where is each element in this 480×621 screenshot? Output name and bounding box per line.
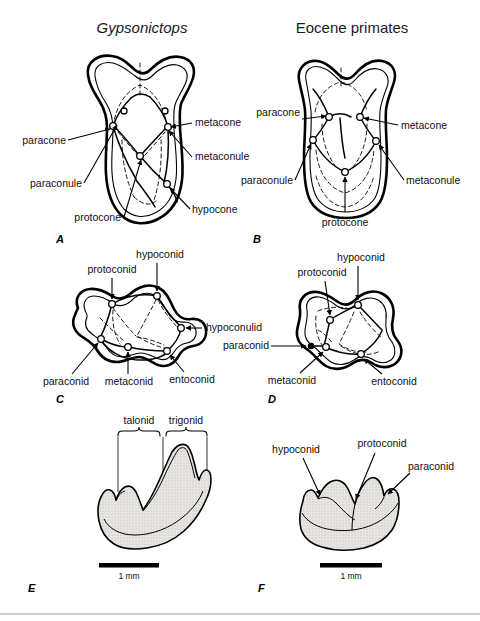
panel-d-cusp-entoconid bbox=[358, 351, 365, 358]
panel-b-label-paraconule: paraconule bbox=[241, 174, 293, 186]
panel-d-label-hypoconid: hypoconid bbox=[337, 251, 385, 263]
tooth-morphology-figure: Gypsonictops Eocene primates bbox=[0, 0, 480, 621]
panel-d-letter: D bbox=[268, 393, 276, 405]
panel-a-tooth-outline bbox=[88, 56, 194, 224]
panel-f-tooth-body bbox=[300, 478, 399, 551]
panel-a-label-protocone: protocone bbox=[74, 211, 121, 223]
panel-a-letter: A bbox=[55, 233, 64, 245]
panel-c-letter: C bbox=[56, 393, 65, 405]
panel-a-cusp-protocone bbox=[137, 153, 144, 160]
panel-c-label-entoconid: entoconid bbox=[169, 373, 215, 385]
panel-b-letter: B bbox=[253, 233, 261, 245]
panel-a-cusp-hypocone bbox=[164, 181, 171, 188]
panel-a-cusp-paracone-apex bbox=[121, 108, 127, 114]
panel-f-letter: F bbox=[258, 582, 265, 594]
panel-d-label-entoconid: entoconid bbox=[371, 375, 417, 387]
panel-c-tooth-outline bbox=[73, 286, 206, 366]
panel-b-cusp-paraconule bbox=[310, 137, 317, 144]
panel-b-label-paracone: paracone bbox=[256, 106, 300, 118]
panel-b-cusp-paracone bbox=[326, 114, 333, 121]
panel-b: paracone metacone paraconule metaconule … bbox=[241, 61, 460, 245]
panel-f-label-paraconid: paraconid bbox=[408, 460, 454, 472]
panel-e-label-trigonid: trigonid bbox=[169, 414, 204, 426]
panel-a-label-hypocone: hypocone bbox=[192, 203, 238, 215]
panel-d-cusp-protoconid bbox=[327, 317, 334, 324]
panel-d-label-paraconid: paraconid bbox=[223, 339, 269, 351]
panel-a-label-metaconule: metaconule bbox=[195, 150, 249, 162]
panel-e-bracket-talonid bbox=[118, 427, 160, 436]
panel-a-label-metacone: metacone bbox=[195, 116, 241, 128]
panel-f-leader-paraconid bbox=[388, 473, 410, 494]
panel-c-label-hypoconulid: hypoconulid bbox=[206, 321, 262, 333]
panel-d-cusp-metaconid bbox=[323, 344, 330, 351]
panel-c-cusp-protoconid bbox=[109, 301, 116, 308]
panel-c-cusp-paraconid bbox=[98, 336, 105, 343]
panel-f-label-protoconid: protoconid bbox=[357, 437, 406, 449]
panel-f-label-hypoconid: hypoconid bbox=[272, 443, 320, 455]
panel-b-label-metacone: metacone bbox=[401, 119, 447, 131]
panel-b-cusp-metacone bbox=[357, 114, 364, 121]
panel-e-tooth-body bbox=[98, 444, 211, 549]
panel-b-cusp-metaconule bbox=[373, 138, 380, 145]
panel-a-cusp-metacone-apex bbox=[162, 108, 168, 114]
panel-b-label-metaconule: metaconule bbox=[406, 174, 460, 186]
panel-c: protoconid hypoconid hypoconulid paracon… bbox=[43, 248, 262, 405]
panel-f-scale-bar bbox=[320, 563, 382, 568]
panel-d-tooth-outline bbox=[297, 292, 402, 369]
panel-d-label-metaconid: metaconid bbox=[268, 374, 317, 386]
panel-e-bracket-trigonid bbox=[166, 427, 207, 436]
panel-c-cusp-hypoconid bbox=[154, 293, 161, 300]
figure-canvas: Gypsonictops Eocene primates bbox=[0, 0, 480, 621]
panel-c-label-protoconid: protoconid bbox=[87, 263, 136, 275]
panel-e-scale-bar bbox=[99, 563, 159, 568]
panel-a-label-paracone: paracone bbox=[22, 134, 66, 146]
panel-a-cusp-metacone bbox=[165, 124, 172, 131]
panel-c-cusp-entoconid bbox=[164, 348, 171, 355]
panel-a: paracone metacone metaconule paraconule … bbox=[22, 56, 249, 245]
panel-c-label-hypoconid: hypoconid bbox=[136, 248, 184, 260]
panel-a-label-paraconule: paraconule bbox=[30, 177, 82, 189]
panel-e-letter: E bbox=[28, 582, 36, 594]
panel-e: talonid trigonid 1 mm E bbox=[28, 414, 211, 594]
panel-c-leader-paraconid bbox=[72, 343, 98, 374]
panel-f-scale-label: 1 mm bbox=[340, 571, 361, 581]
panel-d-label-protoconid: protoconid bbox=[297, 266, 346, 278]
panel-d-cusp-paraconid bbox=[308, 343, 313, 348]
panel-e-label-talonid: talonid bbox=[124, 414, 155, 426]
panel-b-label-protocone: protocone bbox=[322, 216, 369, 228]
panel-e-scale-label: 1 mm bbox=[118, 571, 139, 581]
panel-c-cusp-metaconid bbox=[125, 344, 132, 351]
panel-f: hypoconid protoconid paraconid 1 mm F bbox=[258, 437, 454, 594]
panel-c-label-paraconid: paraconid bbox=[43, 375, 89, 387]
title-left: Gypsonictops bbox=[97, 19, 188, 36]
panel-d-cusp-hypoconid bbox=[355, 302, 362, 309]
panel-b-cusp-protocone bbox=[342, 169, 349, 176]
panel-c-label-metaconid: metaconid bbox=[105, 375, 154, 387]
panel-c-cusp-hypoconulid bbox=[178, 325, 185, 332]
title-right: Eocene primates bbox=[296, 19, 409, 36]
panel-a-leader-paracone bbox=[68, 129, 110, 140]
